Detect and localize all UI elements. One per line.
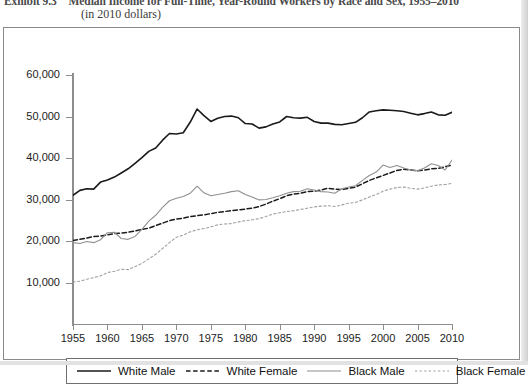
exhibit-caption: Exhibit 9.3Median Income for Full-Time, … [0, 0, 528, 26]
page-edge-shading [521, 0, 528, 365]
x-tick [176, 324, 177, 330]
page-bottom-shading [0, 361, 528, 365]
x-tick [314, 324, 315, 330]
x-tick [452, 324, 453, 330]
legend-label: White Female [227, 365, 298, 377]
exhibit-title: Median Income for Full-Time, Year-Round … [69, 0, 459, 7]
series-line [73, 165, 452, 241]
x-tick [107, 324, 108, 330]
x-tick [211, 324, 212, 330]
legend-swatch [415, 365, 449, 377]
legend-swatch [77, 365, 111, 377]
y-tick-label: 40,000 [6, 151, 60, 163]
x-tick [349, 324, 350, 330]
chart-lines [73, 75, 452, 324]
y-tick-label: 50,000 [6, 110, 60, 122]
legend-label: White Male [118, 365, 176, 377]
x-tick [73, 324, 74, 330]
x-tick [245, 324, 246, 330]
x-tick [142, 324, 143, 330]
x-tick [383, 324, 384, 330]
y-tick-label: 20,000 [6, 234, 60, 246]
x-tick-label: 2010 [432, 332, 472, 344]
series-line [73, 160, 452, 243]
x-tick [280, 324, 281, 330]
exhibit-number: Exhibit 9.3 [4, 0, 57, 7]
plot-area [73, 75, 452, 324]
x-axis-line [72, 324, 453, 325]
x-tick [418, 324, 419, 330]
figure-frame: 10,00020,00030,00040,00050,00060,000 195… [3, 27, 520, 360]
legend-swatch [307, 365, 341, 377]
y-tick-label: 60,000 [6, 68, 60, 80]
legend-label: Black Female [456, 365, 526, 377]
legend-swatch [186, 365, 220, 377]
legend-label: Black Male [348, 365, 404, 377]
exhibit-subtitle: (in 2010 dollars) [81, 7, 161, 22]
y-tick-label: 30,000 [6, 193, 60, 205]
caption-line-1: Exhibit 9.3Median Income for Full-Time, … [4, 0, 528, 7]
y-tick-label: 10,000 [6, 276, 60, 288]
series-line [73, 109, 452, 195]
